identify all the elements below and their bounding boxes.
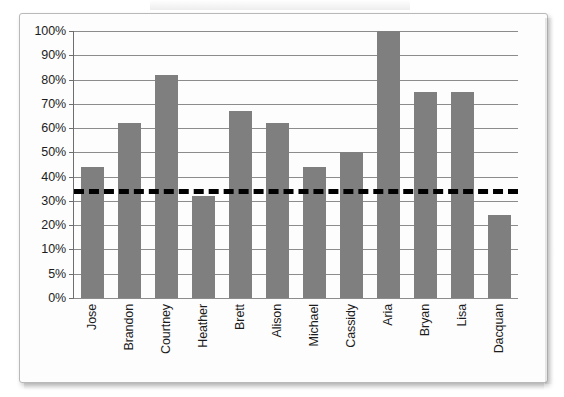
bar-column [377, 31, 400, 298]
bar-column [192, 31, 215, 298]
bar [155, 75, 178, 298]
y-tick-label: 5% [48, 267, 66, 281]
x-axis-label: Lisa [455, 304, 469, 327]
x-axis-label: Bryan [418, 304, 432, 336]
bar-column [155, 31, 178, 298]
y-tick-label: 50% [41, 145, 66, 159]
bar-column [266, 31, 289, 298]
bar-column [118, 31, 141, 298]
x-axis-label-slot: Jose [73, 302, 110, 380]
y-tick-label: 90% [41, 48, 66, 62]
x-axis-label-slot: Lisa [443, 302, 480, 380]
bar [192, 196, 215, 298]
x-axis-label: Michael [307, 304, 321, 346]
y-tick-label: 0% [48, 291, 66, 305]
bar-column [303, 31, 326, 298]
y-tick-label: 80% [41, 73, 66, 87]
bar-column [81, 31, 104, 298]
x-axis-label-slot: Heather [184, 302, 221, 380]
chart-card: 100%90%80%70%60%50%40%30%20%10%5%0% Jose… [19, 13, 548, 383]
x-axis-label-slot: Brett [221, 302, 258, 380]
bar [377, 31, 400, 298]
x-axis-label: Brandon [122, 304, 136, 351]
gridline [74, 298, 518, 299]
bar [414, 92, 437, 298]
bar-column [451, 31, 474, 298]
bar [229, 111, 252, 298]
goal-line [74, 189, 518, 194]
scanned-page: 100%90%80%70%60%50%40%30%20%10%5%0% Jose… [0, 0, 564, 397]
x-axis-label-slot: Cassidy [332, 302, 369, 380]
bar-chart: 100%90%80%70%60%50%40%30%20%10%5%0% Jose… [20, 14, 549, 384]
x-axis-label-slot: Bryan [406, 302, 443, 380]
y-tick-label: 100% [34, 24, 66, 38]
scan-shadow-right [545, 18, 553, 384]
y-tick-label: 20% [41, 218, 66, 232]
y-tick-label: 40% [41, 170, 66, 184]
x-axis-label: Dacquan [492, 304, 506, 353]
plot-area: 100%90%80%70%60%50%40%30%20%10%5%0% [73, 31, 518, 299]
x-axis-label-slot: Dacquan [480, 302, 517, 380]
x-axis-labels: JoseBrandonCourtneyHeatherBrettAlisonMic… [73, 302, 517, 380]
scan-shadow-top [150, 0, 410, 10]
y-tick-label: 30% [41, 194, 66, 208]
x-axis-label: Aria [381, 304, 395, 326]
bar-series [74, 31, 518, 298]
x-axis-label-slot: Aria [369, 302, 406, 380]
x-axis-label: Brett [233, 304, 247, 330]
bar-column [488, 31, 511, 298]
x-axis-label-slot: Courtney [147, 302, 184, 380]
bar [81, 167, 104, 298]
bar-column [414, 31, 437, 298]
bar [303, 167, 326, 298]
x-axis-label: Heather [196, 304, 210, 348]
x-axis-label-slot: Michael [295, 302, 332, 380]
x-axis-label: Alison [270, 304, 284, 337]
x-axis-label: Jose [85, 304, 99, 330]
y-tick-mark [69, 298, 74, 299]
bar-column [229, 31, 252, 298]
x-axis-label-slot: Brandon [110, 302, 147, 380]
scan-shadow-bottom [24, 383, 544, 390]
y-tick-label: 60% [41, 121, 66, 135]
bar-column [340, 31, 363, 298]
bar [488, 215, 511, 298]
x-axis-label: Courtney [159, 304, 173, 354]
bar [451, 92, 474, 298]
y-tick-label: 70% [41, 97, 66, 111]
bar [266, 123, 289, 298]
y-tick-label: 10% [41, 242, 66, 256]
x-axis-label-slot: Alison [258, 302, 295, 380]
bar [340, 152, 363, 298]
x-axis-label: Cassidy [344, 304, 358, 348]
bar [118, 123, 141, 298]
